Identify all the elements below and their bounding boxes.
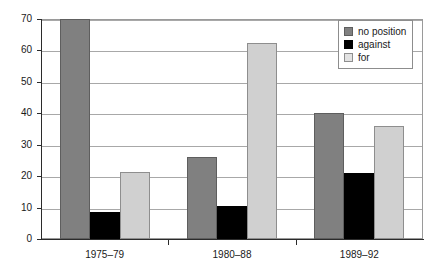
legend-swatch-against-icon — [344, 40, 353, 49]
x-axis-label: 1989–92 — [296, 249, 423, 260]
legend-label-no-position: no position — [358, 26, 406, 37]
x-axis-tick — [296, 240, 297, 245]
bar-1989-92-for — [374, 126, 404, 239]
y-axis-ticks: 010203040506070 — [0, 0, 41, 271]
y-axis-label: 20 — [21, 171, 32, 181]
bar-1975-79-for — [120, 172, 150, 239]
y-axis-label: 40 — [21, 108, 32, 118]
bar-1980-88-for — [247, 43, 277, 239]
bar-chart: 010203040506070 1975–791980–881989–92 no… — [0, 0, 431, 271]
bar-1980-88-no-position — [187, 157, 217, 239]
y-axis-tick — [37, 145, 41, 146]
bar-1989-92-no-position — [314, 113, 344, 239]
y-axis-label: 10 — [21, 203, 32, 213]
legend-label-against: against — [358, 39, 390, 50]
bar-1975-79-against — [90, 212, 120, 239]
y-axis-tick — [37, 50, 41, 51]
y-axis-label: 70 — [21, 14, 32, 24]
x-axis-label: 1980–88 — [168, 249, 295, 260]
y-axis-tick — [37, 82, 41, 83]
legend-swatch-no-position-icon — [344, 27, 353, 36]
bar-1975-79-no-position — [60, 19, 90, 239]
y-axis-label: 30 — [21, 140, 32, 150]
legend-label-for: for — [358, 52, 370, 63]
y-axis-tick — [37, 208, 41, 209]
legend-swatch-for-icon — [344, 53, 353, 62]
chart-legend: no position against for — [338, 20, 413, 69]
x-axis-line — [41, 239, 424, 240]
legend-item-for: for — [344, 51, 406, 64]
legend-item-against: against — [344, 38, 406, 51]
y-axis-label: 0 — [26, 234, 32, 244]
legend-item-no-position: no position — [344, 25, 406, 38]
bar-1980-88-against — [217, 206, 247, 239]
y-axis-tick — [37, 113, 41, 114]
y-axis-tick — [37, 176, 41, 177]
y-axis-tick — [37, 19, 41, 20]
x-axis-label: 1975–79 — [41, 249, 168, 260]
bar-1989-92-against — [344, 173, 374, 239]
y-axis-line — [41, 19, 42, 240]
y-axis-label: 50 — [21, 77, 32, 87]
x-axis-tick — [168, 240, 169, 245]
y-axis-label: 60 — [21, 45, 32, 55]
